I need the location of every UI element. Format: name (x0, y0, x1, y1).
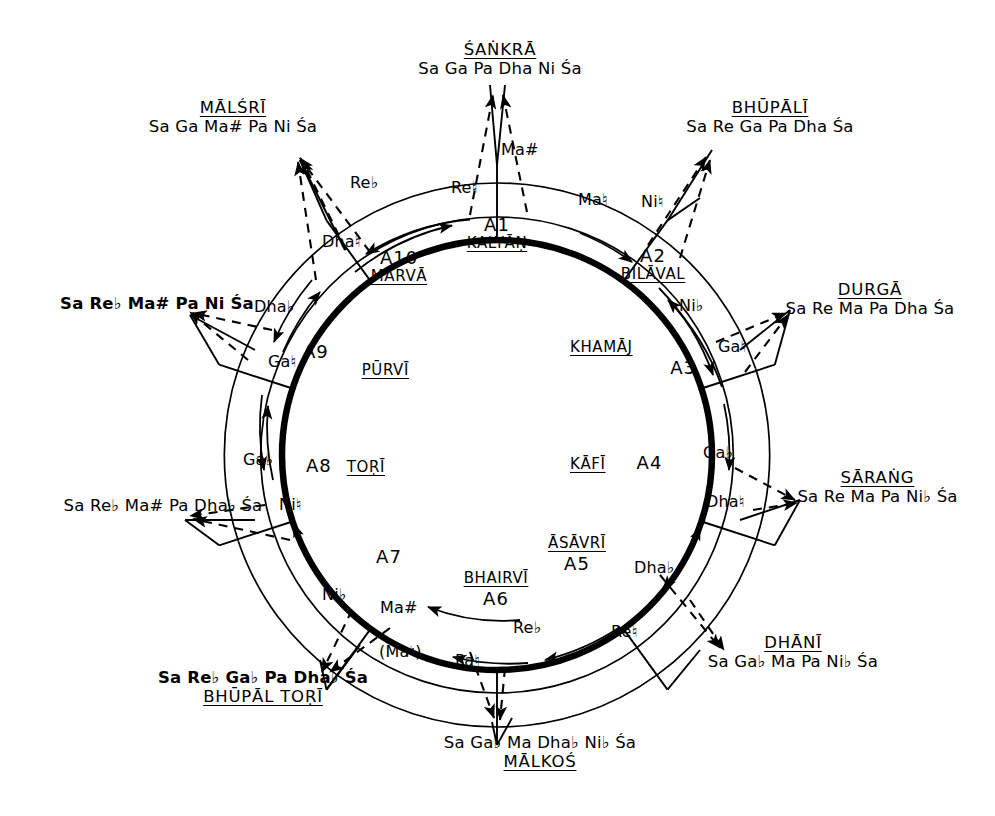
raga-bhupali: BHŪPĀLĪ Sa Re Ga Pa Dha Śa (645, 98, 895, 137)
ring-note-dha-natural-left: Dha♮ (322, 232, 361, 251)
raga-malsri: MĀLŚRĪ Sa Ga Ma# Pa Ni Śa (108, 98, 358, 137)
sector-name: KHAMĀJ (570, 339, 633, 357)
ring-note-ga-natural-left: Ga♮ (268, 352, 297, 371)
ring-note-ma-natural: Ma♮ (578, 190, 608, 209)
raga-notes: Sa Ga Ma# Pa Ni Śa (108, 117, 358, 136)
raga-notes: Sa Re♭ Ma# Pa Dha♭ Śa (18, 496, 308, 515)
sector-code: A4 (637, 452, 663, 473)
raga-notes: Sa Re Ga Pa Dha Śa (645, 117, 895, 136)
sector-a8: A8 TOṚĪ (306, 455, 385, 477)
sector-code: A5 (564, 553, 590, 574)
raga-name: SĀRAṄG (760, 468, 995, 487)
sector-name: PŪRVĪ (362, 362, 409, 380)
sector-a6: BHAIRVĪ A6 (446, 570, 546, 609)
ring-note-ga-flat-right: Ga♭ (703, 443, 733, 462)
sector-name: ĀSĀVRĪ (548, 535, 606, 553)
ring-note-pa-natural: Pa♮ (455, 651, 480, 670)
raga-bhupal-tori: BHŪPĀL TOṚĪ Sa Re♭ Ga♭ Pa Dha♭ Śa (118, 668, 408, 707)
raga-unnamed-mid-left: Sa Re♭ Ma# Pa Ni Śa (22, 294, 292, 313)
ring-note-ga-flat-left: Ga♭ (243, 450, 273, 469)
raga-sarang: SĀRAṄG Sa Re Ma Pa Ni♭ Śa (760, 468, 995, 507)
sector-a2: A2 BILĀVAL (598, 245, 708, 284)
sector-a5: ĀSĀVRĪ A5 (529, 535, 625, 574)
sector-code: A8 (306, 455, 332, 476)
sector-a4: KĀFĪ A4 (570, 452, 662, 474)
raga-name: DURGĀ (745, 280, 995, 299)
sector-a1: A1 KALYĀṆ (449, 214, 545, 253)
raga-unnamed-lower-left: Sa Re♭ Ma# Pa Dha♭ Śa (18, 496, 308, 515)
ring-note-ma-sharp-top: Ma# (501, 140, 539, 159)
raga-name: BHŪPĀLĪ (645, 98, 895, 117)
sector-name: BHAIRVĪ (464, 570, 529, 588)
ring-note-re-flat-low: Re♭ (513, 618, 541, 637)
raga-name: BHŪPĀL TOṚĪ (118, 687, 408, 706)
ring-note-re-natural-low: Re♮ (611, 622, 638, 641)
sector-code: A1 (484, 214, 510, 235)
ring-note-ni-natural-top: Ni♮ (641, 192, 664, 211)
sector-a9: A9 PŪRVĪ (303, 341, 409, 380)
raga-notes: Sa Ga Pa Dha Ni Śa (380, 59, 620, 78)
raga-notes: Sa Ga♭ Ma Pa Ni♭ Śa (668, 652, 918, 671)
raga-notes: Sa Re♭ Ga♭ Pa Dha♭ Śa (118, 668, 408, 687)
sector-a7: A7 (369, 546, 409, 567)
sector-name: TOṚĪ (347, 459, 385, 477)
raga-name: MĀLŚRĪ (108, 98, 358, 117)
sector-code: A9 (303, 341, 329, 362)
sector-code: A3 (670, 357, 696, 378)
raga-dhani: DHĀNĪ Sa Ga♭ Ma Pa Ni♭ Śa (668, 633, 918, 672)
sector-name: BILĀVAL (621, 266, 686, 284)
sector-name: MĀRVĀ (371, 268, 427, 286)
ring-note-ga-natural-right: Ga♮ (718, 337, 747, 356)
ring-note-ma-sharp-low: Ma# (380, 598, 418, 617)
sector-a3: A3 KHAMĀJ (570, 339, 690, 378)
sector-name: KĀFĪ (570, 456, 606, 474)
ring-note-ni-flat-top: Ni♭ (679, 296, 704, 315)
raga-notes: Sa Re♭ Ma# Pa Ni Śa (22, 294, 292, 313)
sector-code: A6 (483, 588, 509, 609)
ring-note-re-natural: Re♮ (451, 178, 478, 197)
raga-name: ŚAṄKRĀ (380, 40, 620, 59)
raga-sankra: ŚAṄKRĀ Sa Ga Pa Dha Ni Śa (380, 40, 620, 79)
raga-name: MĀLKOŚ (395, 752, 685, 771)
raga-malkos: MĀLKOŚ Sa Ga♭ Ma Dha♭ Ni♭ Śa (395, 733, 685, 772)
raga-durga: DURGĀ Sa Re Ma Pa Dha Śa (745, 280, 995, 319)
ring-note-dha-flat-right: Dha♭ (634, 558, 675, 577)
raga-dashed-leaders (190, 95, 797, 720)
ring-note-ma-natural-parenthetical: (Ma♮) (379, 642, 422, 661)
sector-a10: A10 MĀRVĀ (351, 247, 447, 286)
sector-code: A2 (640, 245, 666, 266)
sector-name: KALYĀṆ (467, 235, 527, 253)
ring-note-dha-natural: Dha♮ (706, 492, 745, 511)
sector-code: A10 (380, 247, 418, 268)
raga-circle-diagram: A1 KALYĀṆ A2 BILĀVAL A3 KHAMĀJ KĀFĪ A4 Ā… (0, 0, 995, 816)
raga-notes: Sa Ga♭ Ma Dha♭ Ni♭ Śa (395, 733, 685, 752)
raga-notes: Sa Re Ma Pa Dha Śa (745, 299, 995, 318)
raga-name: DHĀNĪ (668, 633, 918, 652)
ring-note-ni-flat-low: Ni♭ (322, 585, 347, 604)
raga-notes: Sa Re Ma Pa Ni♭ Śa (760, 487, 995, 506)
sector-code: A7 (376, 546, 402, 567)
ring-note-re-flat: Re♭ (350, 173, 378, 192)
